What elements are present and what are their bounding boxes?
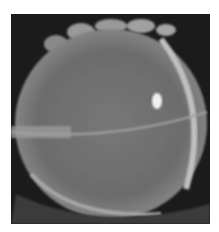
lens-shape [15,29,207,219]
eye-illustration [11,14,210,224]
eye-photograph [11,14,210,224]
reflection-highlight [152,93,162,109]
